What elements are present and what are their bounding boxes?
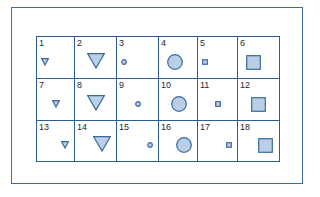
grid-cell-12: 12 xyxy=(238,79,279,121)
triangle-icon xyxy=(52,100,60,108)
cell-number: 9 xyxy=(119,80,124,90)
grid-cell-6: 6 xyxy=(238,37,279,79)
cell-number: 11 xyxy=(200,80,209,90)
cell-number: 18 xyxy=(240,122,250,132)
square-icon xyxy=(215,101,221,107)
cell-number: 16 xyxy=(161,122,171,132)
grid-cell-13: 13 xyxy=(37,121,75,161)
cell-number: 6 xyxy=(240,38,245,48)
circle-icon xyxy=(135,101,141,107)
grid-cell-2: 2 xyxy=(75,37,117,79)
triangle-icon xyxy=(87,53,105,71)
square-icon xyxy=(251,97,266,112)
cell-number: 8 xyxy=(77,80,82,90)
grid-cell-4: 4 xyxy=(159,37,198,79)
cell-number: 15 xyxy=(119,122,129,132)
square-icon xyxy=(258,138,273,153)
cell-number: 14 xyxy=(77,122,87,132)
grid-cell-1: 1 xyxy=(37,37,75,79)
triangle-icon xyxy=(41,58,49,66)
square-icon xyxy=(246,55,261,70)
circle-icon xyxy=(176,137,192,153)
grid-cell-11: 11 xyxy=(198,79,238,121)
circle-icon xyxy=(121,59,127,65)
cell-number: 17 xyxy=(200,122,210,132)
triangle-icon xyxy=(87,95,105,113)
cell-number: 12 xyxy=(240,80,250,90)
cell-number: 13 xyxy=(39,122,49,132)
grid-cell-7: 7 xyxy=(37,79,75,121)
circle-icon xyxy=(147,142,153,148)
triangle-icon xyxy=(93,136,111,154)
grid-cell-14: 14 xyxy=(75,121,117,161)
cell-number: 7 xyxy=(39,80,44,90)
grid-cell-17: 17 xyxy=(198,121,238,161)
square-icon xyxy=(202,59,208,65)
grid-cell-9: 9 xyxy=(117,79,159,121)
grid-cell-18: 18 xyxy=(238,121,279,161)
circle-icon xyxy=(171,96,187,112)
cell-number: 2 xyxy=(77,38,82,48)
circle-icon xyxy=(167,54,183,70)
grid-cell-16: 16 xyxy=(159,121,198,161)
grid-cell-5: 5 xyxy=(198,37,238,79)
cell-number: 10 xyxy=(161,80,171,90)
grid-cell-10: 10 xyxy=(159,79,198,121)
square-icon xyxy=(226,142,232,148)
shape-grid: 123456789101112131415161718 xyxy=(36,36,280,162)
cell-number: 1 xyxy=(39,38,44,48)
grid-cell-8: 8 xyxy=(75,79,117,121)
grid-cell-3: 3 xyxy=(117,37,159,79)
triangle-icon xyxy=(61,141,69,149)
cell-number: 5 xyxy=(200,38,205,48)
cell-number: 4 xyxy=(161,38,166,48)
grid-cell-15: 15 xyxy=(117,121,159,161)
cell-number: 3 xyxy=(119,38,124,48)
